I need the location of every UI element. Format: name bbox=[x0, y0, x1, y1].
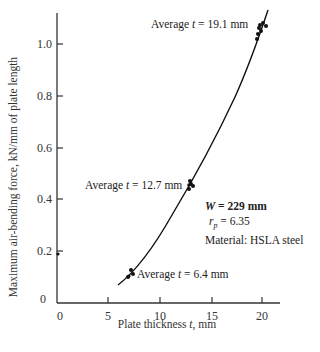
annotation-avg-12-7: Average t = 12.7 mm bbox=[85, 179, 182, 191]
x-ticks bbox=[108, 297, 262, 303]
param-rp-value: = 6.35 bbox=[217, 215, 249, 227]
y-axis-label-text: Maximum air-bending force, kN/mm of plat… bbox=[7, 57, 19, 297]
param-w-var: W bbox=[205, 200, 215, 212]
parameters-block: W = 229 mm rp = 6.35 Material: HSLA stee… bbox=[205, 199, 303, 248]
y-axis-label: Maximum air-bending force, kN/mm of plat… bbox=[2, 52, 24, 302]
param-punch-radius: rp = 6.35 bbox=[205, 214, 303, 233]
y-tick-label: 0.2 bbox=[22, 244, 52, 259]
x-axis-label: Plate thickness t, mm bbox=[0, 318, 320, 330]
annotation-text: Average bbox=[137, 268, 178, 280]
annotation-text: = 19.1 mm bbox=[195, 18, 248, 30]
y-ticks bbox=[57, 44, 63, 251]
y-tick-label: 0.4 bbox=[22, 192, 52, 207]
x-axis-label-suffix: , mm bbox=[193, 318, 217, 330]
y-tick-label: 0.8 bbox=[22, 89, 52, 104]
annotation-avg-19-1: Average t = 19.1 mm bbox=[151, 18, 248, 30]
y-tick-label: 0.6 bbox=[22, 141, 52, 156]
param-material: Material: HSLA steel bbox=[205, 233, 303, 248]
annotation-avg-6-4: Average t = 6.4 mm bbox=[137, 268, 229, 280]
annotation-text: = 6.4 mm bbox=[181, 268, 228, 280]
param-width: W = 229 mm bbox=[205, 199, 303, 214]
annotation-text: Average bbox=[151, 18, 192, 30]
x-axis-label-prefix: Plate thickness bbox=[118, 318, 190, 330]
y-tick-label: 0 bbox=[16, 292, 46, 307]
chart-plot-area bbox=[0, 0, 320, 352]
param-w-value: = 229 mm bbox=[215, 200, 267, 212]
y-tick-label: 1.0 bbox=[22, 37, 52, 52]
annotation-text: = 12.7 mm bbox=[129, 179, 182, 191]
annotation-text: Average bbox=[85, 179, 126, 191]
